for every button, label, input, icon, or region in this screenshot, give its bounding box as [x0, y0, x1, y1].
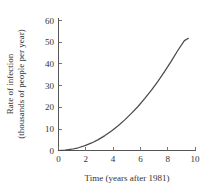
- y-axis-title-line1: Rate of infection: [5, 53, 15, 114]
- y-tick-label-40: 40: [45, 59, 55, 69]
- y-tick-label-10: 10: [45, 124, 55, 134]
- y-tick-labels: 0 10 20 30 40 50 60: [45, 16, 55, 156]
- y-tick-label-0: 0: [50, 146, 55, 156]
- x-tick-label-6: 6: [138, 154, 143, 164]
- x-tick-label-8: 8: [165, 154, 170, 164]
- x-tick-label-4: 4: [111, 154, 116, 164]
- x-tick-labels: 0 2 4 6 8 10: [56, 154, 200, 164]
- infection-rate-curve: [59, 38, 189, 150]
- y-axis-title-line2: (thousands of people per year): [16, 29, 26, 138]
- x-tick-label-0: 0: [56, 154, 61, 164]
- y-tick-label-30: 30: [45, 81, 55, 91]
- chart-figure: 0 10 20 30 40 50 60 0 2 4 6 8 10 Time (y…: [0, 0, 205, 190]
- x-axis-title: Time (years after 1981): [85, 173, 170, 183]
- chart-plot-area: 0 10 20 30 40 50 60 0 2 4 6 8 10 Time (y…: [0, 0, 205, 190]
- y-tick-label-60: 60: [45, 16, 55, 26]
- y-tick-label-50: 50: [45, 37, 55, 47]
- axes-group: [59, 18, 197, 151]
- y-tick-label-20: 20: [45, 102, 55, 112]
- x-tick-label-10: 10: [191, 154, 201, 164]
- y-tick-marks: [59, 21, 63, 151]
- x-tick-label-2: 2: [84, 154, 89, 164]
